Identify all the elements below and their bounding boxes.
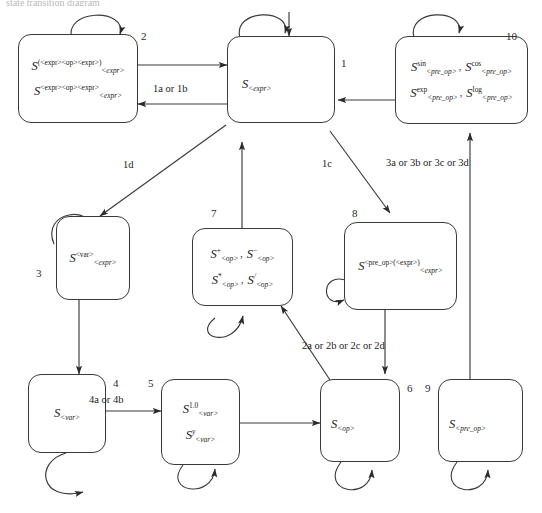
- state-1-node[interactable]: S<expr>: [227, 36, 335, 123]
- state-5-node[interactable]: S1.0<var> Sy<var>: [161, 379, 240, 465]
- state-9-node[interactable]: S<pre_op>: [438, 379, 523, 462]
- edge-label-2a-2b-2c-2d: 2a or 2b or 2c or 2d: [302, 340, 385, 351]
- selfloop-state-5: [178, 465, 215, 489]
- state-3-number: 3: [36, 267, 42, 279]
- state-8-number: 8: [352, 207, 358, 219]
- state-10-line-1: Ssin<pre_op>,Scos<pre_op>: [411, 61, 512, 74]
- selfloop-state-10: [413, 15, 459, 38]
- state-4-number: 4: [113, 377, 119, 389]
- state-5-number: 5: [148, 377, 154, 389]
- edge-label-1c: 1c: [322, 158, 332, 169]
- selfloop-state-9: [451, 462, 488, 490]
- state-6-number: 6: [407, 382, 413, 394]
- state-2-line-1: S(<expr><op><expr>)<expr>: [32, 60, 125, 73]
- selfloop-state-4: [46, 453, 83, 494]
- state-4-node[interactable]: S<var>: [28, 374, 106, 453]
- state-5-line-2: Sy<var>: [186, 429, 215, 442]
- state-7-number: 7: [211, 207, 217, 219]
- state-5-line-1: S1.0<var>: [183, 403, 218, 416]
- state-4-line-1: S<var>: [54, 407, 80, 420]
- state-7-line-1: S+<op>,S−<op>: [210, 248, 274, 261]
- state-2-number: 2: [141, 30, 147, 42]
- selfloop-state-6: [335, 462, 372, 490]
- state-6-node[interactable]: S<op>: [320, 379, 400, 462]
- edge-label-4a-or-4b: 4a or 4b: [89, 394, 123, 405]
- state-8-line-1: S<pre_op>(<expr>)<expr>: [358, 260, 443, 273]
- state-3-line-1: S<var><expr>: [69, 252, 116, 265]
- edge-label-1d: 1d: [123, 159, 134, 170]
- state-8-node[interactable]: S<pre_op>(<expr>)<expr>: [344, 222, 457, 310]
- state-1-line-1: S<expr>: [242, 78, 271, 91]
- selfloop-state-1: [239, 15, 285, 38]
- edge-label-3a-3b-3c-3d: 3a or 3b or 3c or 3d: [386, 157, 469, 168]
- state-10-line-2: Sexp<pre_op>,Slog<pre_op>: [410, 87, 512, 100]
- state-3-node[interactable]: S<var><expr>: [56, 216, 130, 300]
- state-diagram-canvas: state transition diagram: [0, 0, 542, 513]
- edge-1-to-3: [100, 125, 226, 216]
- state-2-node[interactable]: S(<expr><op><expr>)<expr> S<expr><op><ex…: [18, 34, 138, 123]
- state-2-line-2: S<expr><op><expr><expr>: [34, 85, 122, 98]
- state-1-number: 1: [341, 57, 347, 69]
- state-10-node[interactable]: Ssin<pre_op>,Scos<pre_op> Sexp<pre_op>,S…: [395, 36, 528, 124]
- state-6-line-1: S<op>: [331, 418, 355, 431]
- edge-label-1a-or-1b: 1a or 1b: [153, 83, 187, 94]
- state-7-line-2: S*<op>,S/<op>: [212, 274, 274, 287]
- state-9-line-1: S<pre_op>: [449, 418, 486, 431]
- edge-1-to-8: [330, 131, 390, 213]
- state-9-number: 9: [425, 382, 431, 394]
- state-7-node[interactable]: S+<op>,S−<op> S*<op>,S/<op>: [192, 228, 293, 306]
- selfloop-state-7: [208, 316, 243, 337]
- state-10-number: 10: [506, 30, 517, 42]
